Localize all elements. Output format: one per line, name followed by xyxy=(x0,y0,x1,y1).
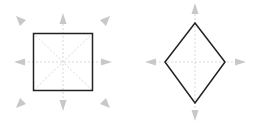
diagram-canvas xyxy=(0,0,257,130)
arrow-e-icon[interactable] xyxy=(235,59,246,66)
arrow-n-icon[interactable] xyxy=(192,3,199,14)
arrow-s-icon[interactable] xyxy=(60,100,67,111)
arrow-nw-icon[interactable] xyxy=(16,16,26,26)
arrow-w-icon[interactable] xyxy=(14,59,25,66)
arrow-w-icon[interactable] xyxy=(145,59,156,66)
square-group xyxy=(14,13,112,111)
arrow-s-icon[interactable] xyxy=(192,110,199,121)
arrow-sw-icon[interactable] xyxy=(16,98,26,108)
arrow-ne-icon[interactable] xyxy=(100,16,110,26)
arrow-se-icon[interactable] xyxy=(100,98,110,108)
diamond-group xyxy=(145,3,246,121)
arrow-e-icon[interactable] xyxy=(101,59,112,66)
arrow-n-icon[interactable] xyxy=(60,13,67,24)
diagram-svg xyxy=(0,0,257,130)
